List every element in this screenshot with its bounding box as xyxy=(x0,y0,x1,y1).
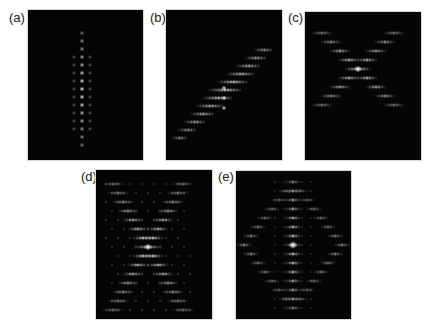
diffraction-panel-d xyxy=(96,170,212,319)
diffraction-panel-a xyxy=(28,10,143,160)
diffraction-panel-e xyxy=(236,171,351,319)
panel-label-e: (e) xyxy=(218,170,234,183)
diffraction-pattern-image xyxy=(166,10,282,160)
diffraction-pattern-image xyxy=(305,12,421,160)
diffraction-pattern-image xyxy=(28,10,143,160)
panel-label-a: (a) xyxy=(9,11,25,24)
panel-label-c: (c) xyxy=(288,11,303,24)
diffraction-pattern-image xyxy=(96,170,212,319)
diffraction-panel-b xyxy=(166,10,282,160)
diffraction-panel-c xyxy=(305,12,421,160)
diffraction-pattern-image xyxy=(236,171,351,319)
panel-label-b: (b) xyxy=(150,11,166,24)
panel-label-d: (d) xyxy=(81,170,97,183)
